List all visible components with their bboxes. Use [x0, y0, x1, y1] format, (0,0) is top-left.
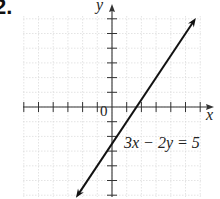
y-axis-label: y: [96, 0, 103, 14]
origin-label: 0: [100, 103, 108, 120]
equation-label: 3x − 2y = 5: [124, 134, 200, 152]
x-axis-label: x: [206, 106, 213, 124]
problem-number: 2.: [0, 0, 12, 20]
coordinate-plane: [0, 0, 220, 199]
plotted-line: [76, 18, 196, 198]
